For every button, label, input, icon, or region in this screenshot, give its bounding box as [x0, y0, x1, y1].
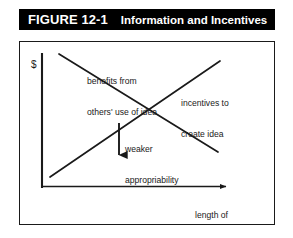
annotation-benefits-line1: benefits from — [87, 76, 157, 86]
y-axis-label: $ — [31, 59, 37, 70]
figure-title-bar: FIGURE 12-1 Information and Incentives — [19, 9, 275, 30]
annotation-benefits-line2: others' use of idea — [87, 107, 157, 117]
annotation-length-line1: length of — [195, 210, 247, 220]
page-title: Information and Incentives — [121, 14, 267, 26]
chart-plot-area: $ benefits from others' use of idea ince… — [19, 41, 275, 225]
annotation-weaker-appropriability: weaker appropriability — [125, 123, 179, 206]
annotation-weaker-line2: appropriability — [125, 175, 179, 185]
figure-container: FIGURE 12-1 Information and Incentives — [0, 0, 293, 238]
annotation-incentives-line2: create idea — [181, 129, 229, 139]
annotation-incentives-to-create: incentives to create idea — [181, 77, 229, 160]
annotation-weaker-line1: weaker — [125, 144, 179, 154]
annotation-incentives-line1: incentives to — [181, 98, 229, 108]
figure-number-label: FIGURE 12-1 — [28, 12, 108, 27]
x-axis-label: length of the monopoly — [195, 189, 247, 238]
